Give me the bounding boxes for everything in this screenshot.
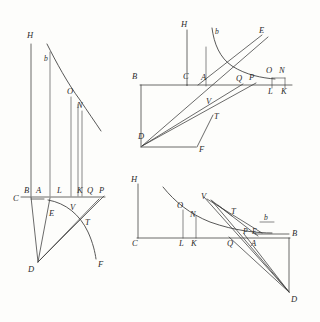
diagram-canvas: H b O N C B A L K Q P E V T D F	[0, 0, 320, 322]
label-F: F	[198, 144, 205, 154]
label-O: O	[67, 86, 73, 96]
label-Q: Q	[87, 185, 93, 195]
left-ray-D-to-C	[31, 197, 38, 262]
label-T: T	[214, 111, 220, 121]
left-curve-b	[47, 44, 101, 131]
label-L: L	[178, 238, 184, 248]
diagram-plate: H b O N C B A L K Q P E V T D F	[0, 0, 320, 322]
label-K: K	[76, 185, 84, 195]
label-B: B	[132, 71, 137, 81]
label-Q: Q	[236, 73, 242, 83]
label-V: V	[201, 191, 208, 201]
label-Q: Q	[227, 238, 233, 248]
label-A: A	[35, 185, 42, 195]
label-P: P	[242, 227, 248, 236]
label-O: O	[177, 200, 183, 210]
label-T: T	[231, 206, 237, 216]
label-K: K	[280, 86, 288, 96]
label-D: D	[137, 131, 145, 141]
label-H: H	[26, 30, 34, 40]
label-H: H	[130, 174, 138, 184]
label-V: V	[70, 202, 77, 212]
label-C: C	[13, 193, 19, 203]
label-b: b	[264, 213, 268, 222]
label-C: C	[132, 238, 138, 248]
label-F: F	[97, 259, 104, 269]
label-T: T	[85, 217, 91, 227]
figure-left-geometry	[21, 44, 105, 262]
figure-bottom-right-geometry	[137, 184, 290, 292]
label-N: N	[76, 100, 84, 110]
label-L: L	[56, 185, 62, 195]
label-P: P	[98, 185, 104, 195]
label-D: D	[27, 264, 35, 274]
tr-ray-D-to-Q	[142, 84, 243, 146]
label-B: B	[292, 228, 297, 238]
label-b: b	[215, 27, 219, 36]
label-D: D	[290, 294, 298, 304]
label-V: V	[206, 96, 213, 106]
br-ray-D-to-Q	[229, 237, 289, 292]
label-K: K	[190, 238, 198, 248]
label-A: A	[250, 238, 257, 248]
label-E: E	[251, 227, 257, 236]
br-ray-D-to-V	[204, 197, 289, 292]
label-E: E	[48, 208, 55, 218]
label-B: B	[24, 185, 29, 195]
figure-bottom-right-labels: H O V N T b P E C L K Q A B D	[130, 174, 298, 304]
label-P: P	[248, 72, 254, 82]
tr-ray-D-to-E	[142, 37, 268, 146]
tr-ray-D-to-P	[142, 83, 256, 146]
label-N: N	[278, 65, 286, 75]
label-H: H	[180, 19, 188, 29]
label-A: A	[200, 72, 207, 82]
label-L: L	[267, 86, 273, 96]
label-C: C	[183, 71, 189, 81]
label-b: b	[44, 54, 48, 63]
label-O: O	[266, 65, 272, 75]
figure-top-right-labels: H b E B C A Q P O N L K V T D F	[132, 19, 288, 154]
tr-segment-T-to-F	[197, 115, 213, 147]
label-E: E	[258, 25, 265, 35]
